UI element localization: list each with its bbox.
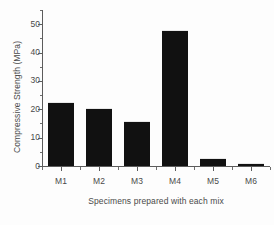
- bar-chart-figure: Compressive Strength (MPa) 01020304050 M…: [0, 0, 274, 225]
- y-tick-label: 40: [14, 48, 40, 57]
- y-tick-minor: [40, 10, 43, 11]
- x-tick-minor: [232, 167, 233, 170]
- x-tick-minor: [80, 167, 81, 170]
- bar: [238, 163, 264, 166]
- x-tick-major: [251, 167, 252, 171]
- y-tick-major: [38, 53, 42, 54]
- y-tick-minor: [40, 95, 43, 96]
- bar: [86, 108, 112, 166]
- y-tick-label: 20: [14, 105, 40, 114]
- plot-area: M1M2M3M4M5M6: [42, 10, 270, 166]
- y-tick-label: 10: [14, 133, 40, 142]
- x-tick-label: M1: [41, 176, 81, 186]
- x-tick-minor: [156, 167, 157, 170]
- x-tick-label: M2: [79, 176, 119, 186]
- y-tick-major: [38, 138, 42, 139]
- x-tick-major: [61, 167, 62, 171]
- x-tick-major: [137, 167, 138, 171]
- x-tick-label: M3: [117, 176, 157, 186]
- x-tick-major: [213, 167, 214, 171]
- y-tick-label: 50: [14, 20, 40, 29]
- y-tick-major: [38, 24, 42, 25]
- x-tick-label: M5: [193, 176, 233, 186]
- y-tick-minor: [40, 123, 43, 124]
- x-tick-minor: [194, 167, 195, 170]
- y-tick-label: 30: [14, 76, 40, 85]
- x-tick-minor: [118, 167, 119, 170]
- x-axis-label: Specimens prepared with each mix: [42, 196, 270, 206]
- bar: [162, 30, 188, 166]
- x-tick-minor: [270, 167, 271, 170]
- bar: [48, 102, 74, 166]
- y-tick-minor: [40, 152, 43, 153]
- x-tick-major: [175, 167, 176, 171]
- y-tick-major: [38, 109, 42, 110]
- bar: [124, 121, 150, 166]
- y-tick-major: [38, 81, 42, 82]
- y-axis-tick-labels: 01020304050: [14, 0, 40, 225]
- bar: [200, 158, 226, 167]
- y-axis-line: [42, 10, 43, 166]
- x-tick-label: M6: [231, 176, 271, 186]
- y-tick-minor: [40, 38, 43, 39]
- y-tick-label: 0: [14, 162, 40, 171]
- x-tick-label: M4: [155, 176, 195, 186]
- x-tick-major: [99, 167, 100, 171]
- y-tick-minor: [40, 67, 43, 68]
- x-tick-minor: [42, 167, 43, 170]
